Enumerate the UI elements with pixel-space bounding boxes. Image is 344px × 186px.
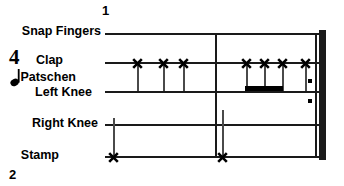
- score-page: 1 2 4 Snap Fingers Clap Patschen Left Kn…: [0, 0, 344, 186]
- staff-label-clap: Clap: [36, 54, 63, 67]
- staff-line-left-knee: [105, 91, 322, 93]
- notehead-clap-note-4: [241, 58, 252, 69]
- barline-middle: [215, 33, 217, 157]
- repeat-dot-lower: [308, 99, 312, 103]
- final-barline-thin-line: [315, 33, 317, 157]
- notehead-clap-note-5: [259, 58, 270, 69]
- measure-number-1: 1: [102, 4, 109, 17]
- notehead-stamp-note-2: [217, 152, 228, 163]
- staff-line-snap-fingers: [105, 33, 322, 35]
- staff-label-snap-fingers: Snap Fingers: [22, 25, 101, 38]
- final-barline-thick-line: [319, 30, 326, 160]
- measure-number-2: 2: [9, 168, 16, 181]
- notehead-stamp-note-1: [108, 152, 119, 163]
- staff-line-right-knee: [105, 124, 322, 126]
- staff-label-stamp: Stamp: [21, 149, 59, 162]
- time-signature-number: 4: [9, 47, 20, 68]
- note-stem-stamp-note-1: [113, 118, 115, 156]
- staff-label-right-knee: Right Knee: [32, 117, 98, 130]
- beam-right-group: [245, 86, 283, 91]
- notehead-clap-note-1: [132, 58, 143, 69]
- repeat-dot-upper: [308, 79, 312, 83]
- notehead-clap-note-6: [277, 58, 288, 69]
- staff-label-left-knee: Left Knee: [35, 86, 92, 99]
- note-stem-stamp-note-2: [222, 110, 224, 156]
- staff-label-patschen: Patschen: [20, 71, 76, 84]
- notehead-clap-note-7: [300, 58, 311, 69]
- notehead-clap-note-2: [158, 58, 169, 69]
- notehead-clap-note-3: [178, 58, 189, 69]
- staff-line-stamp: [105, 156, 322, 158]
